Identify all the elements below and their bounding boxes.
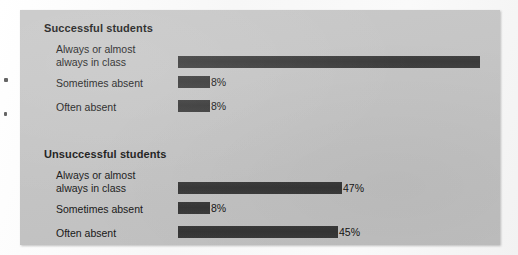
bar-fill [178, 56, 480, 68]
bar-value-label: 8% [211, 100, 226, 112]
bar-row: Always or almost always in class 84% [44, 42, 492, 72]
bar-row-label: Sometimes absent [56, 203, 174, 216]
bar-row-label: Often absent [56, 227, 174, 240]
bar-value-label: 47% [343, 182, 364, 194]
bar-fill [178, 202, 210, 214]
bar-row: Often absent 8% [44, 96, 492, 120]
bar-track: 45% [178, 222, 492, 250]
scan-speck-icon [4, 112, 7, 116]
bar-track: 8% [178, 96, 492, 124]
bar-fill [178, 226, 338, 238]
bar-row-label-line2: always in class [56, 182, 174, 195]
bar-row-label-line1: Often absent [56, 227, 174, 240]
bar-fill [178, 76, 210, 88]
chart-section-successful: Successful students Always or almost alw… [44, 22, 492, 120]
bar-row-label-line1: Sometimes absent [56, 77, 174, 90]
bar-value-label: 8% [211, 76, 226, 88]
bar-fill [178, 100, 210, 112]
bar-value-label: 45% [339, 226, 360, 238]
section-title: Successful students [44, 22, 492, 35]
scan-speck-icon [4, 78, 8, 82]
scanned-page: Successful students Always or almost alw… [0, 0, 518, 255]
bar-row-label: Always or almost always in class [56, 169, 174, 194]
bar-row-label: Sometimes absent [56, 77, 174, 90]
bar-row-label-line1: Always or almost [56, 43, 174, 56]
chart-section-unsuccessful: Unsuccessful students Always or almost a… [44, 148, 492, 246]
bar-row-label: Always or almost always in class [56, 43, 174, 68]
bar-fill [178, 182, 342, 194]
bar-row-label-line1: Often absent [56, 101, 174, 114]
bar-row: Always or almost always in class 47% [44, 168, 492, 198]
section-title: Unsuccessful students [44, 148, 492, 161]
bar-row-label-line1: Always or almost [56, 169, 174, 182]
bar-chart-panel: Successful students Always or almost alw… [20, 10, 500, 245]
bar-value-label: 8% [211, 202, 226, 214]
bar-row-label-line1: Sometimes absent [56, 203, 174, 216]
bar-row: Sometimes absent 8% [44, 198, 492, 222]
bar-row: Often absent 45% [44, 222, 492, 246]
bar-row-label-line2: always in class [56, 56, 174, 69]
bar-row: Sometimes absent 8% [44, 72, 492, 96]
bar-row-label: Often absent [56, 101, 174, 114]
